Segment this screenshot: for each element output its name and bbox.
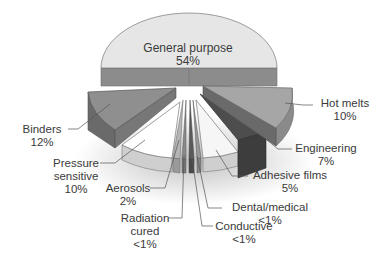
label-name: Aerosols	[103, 182, 153, 195]
label-name: Radiation	[117, 212, 173, 225]
label-name-line2: sensitive	[48, 170, 104, 183]
label-general-purpose: General purpose 54%	[132, 42, 244, 68]
label-name: Pressure	[48, 157, 104, 170]
label-value: 12%	[18, 136, 66, 149]
label-name: Dental/medical	[224, 201, 316, 214]
label-conductive: Conductive <1%	[212, 220, 276, 246]
label-value: <1%	[212, 233, 276, 246]
label-name: Hot melts	[315, 97, 375, 110]
label-hot-melts: Hot melts 10%	[315, 97, 375, 123]
label-pressure-sensitive: Pressure sensitive 10%	[48, 157, 104, 196]
label-value: 54%	[132, 55, 244, 68]
label-name: Conductive	[212, 220, 276, 233]
label-name-line2: cured	[117, 225, 173, 238]
label-radiation-cured: Radiation cured <1%	[117, 212, 173, 251]
label-binders: Binders 12%	[18, 123, 66, 149]
label-value: 5%	[250, 182, 330, 195]
label-value: 10%	[315, 110, 375, 123]
label-value: <1%	[117, 238, 173, 251]
label-engineering: Engineering 7%	[292, 142, 360, 168]
label-name: Engineering	[292, 142, 360, 155]
label-aerosols: Aerosols 2%	[103, 182, 153, 208]
label-name: Binders	[18, 123, 66, 136]
label-value: 7%	[292, 155, 360, 168]
label-name: Adhesive films	[250, 169, 330, 182]
label-value: 10%	[48, 183, 104, 196]
label-value: 2%	[103, 195, 153, 208]
label-adhesive-films: Adhesive films 5%	[250, 169, 330, 195]
